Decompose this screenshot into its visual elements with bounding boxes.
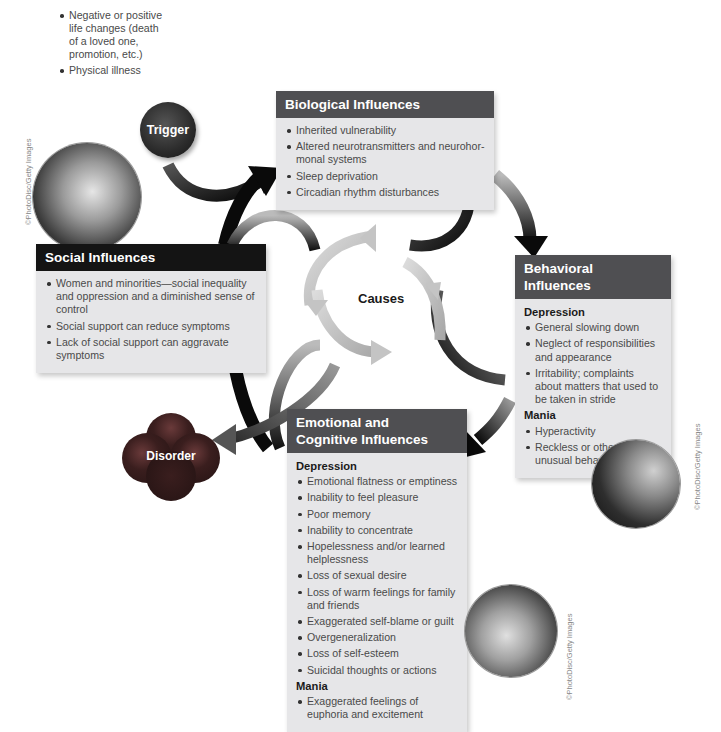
emotional-depression-label: Depression [296, 460, 458, 473]
behavioral-depression-label: Depression [524, 306, 662, 319]
biological-title: Biological Influences [276, 91, 494, 118]
trigger-list: Negative or positive life changes (death… [58, 8, 168, 80]
emotional-depression-item: Loss of warm feelings for family and fri… [296, 586, 458, 612]
emotional-depression-item: Loss of sexual desire [296, 569, 458, 582]
biological-influences-box: Biological Influences Inherited vulnerab… [276, 91, 494, 210]
trigger-item: Physical illness [58, 64, 168, 77]
emotional-depression-item: Overgeneralization [296, 631, 458, 644]
social-item: Social support can reduce symptoms [45, 320, 257, 333]
behavioral-mania-label: Mania [524, 409, 662, 422]
emotional-depression-item: Inability to feel pleasure [296, 491, 458, 504]
behavioral-depression-item: General slowing down [524, 321, 662, 334]
disorder-label: Disorder [122, 449, 220, 463]
social-influences-box: Social Influences Women and minorities—s… [36, 244, 266, 373]
emotional-depression-item: Suicidal thoughts or actions [296, 664, 458, 677]
trigger-node: Trigger [140, 102, 196, 158]
causes-label: Causes [358, 291, 404, 306]
arrow-behavioral-to-emotional [462, 400, 510, 458]
emotional-depression-item: Loss of self-esteem [296, 647, 458, 660]
behavioral-depression-item: Irritability; complaints about matters t… [524, 367, 662, 407]
emotional-title-line2: Cognitive Influences [296, 431, 458, 448]
biological-item: Sleep deprivation [285, 170, 485, 183]
emotional-depression-item: Poor memory [296, 508, 458, 521]
emotional-photo [465, 585, 557, 677]
emotional-title-line1: Emotional and [296, 414, 458, 431]
emotional-photo-credit: ©PhotoDisc/Getty Images [565, 614, 574, 700]
disorder-node: Disorder [122, 413, 220, 501]
behavioral-depression-item: Neglect of responsibilities and appearan… [524, 337, 662, 363]
emotional-cognitive-influences-box: Emotional and Cognitive Influences Depre… [287, 409, 467, 732]
social-photo-credit: ©PhotoDisc/Getty Images [24, 139, 33, 225]
social-photo [33, 143, 141, 251]
emotional-mania-label: Mania [296, 680, 458, 693]
biological-item: Inherited vulnerability [285, 124, 485, 137]
behavioral-photo-credit: ©PhotoDisc/Getty Images [693, 424, 702, 510]
trigger-label: Trigger [147, 123, 189, 137]
emotional-mania-item: Exaggerated feelings of euphoria and exc… [296, 695, 458, 721]
arrow-behavioral-inner [436, 290, 505, 380]
trigger-item: Negative or positive life changes (death… [58, 9, 168, 61]
social-item: Lack of social support can aggravate sym… [45, 336, 257, 362]
behavioral-mania-item: Hyperactivity [524, 425, 662, 438]
emotional-depression-item: Exaggerated self-blame or guilt [296, 615, 458, 628]
arrow-biological-to-behavioral [495, 175, 548, 258]
social-title: Social Influences [36, 244, 266, 271]
behavioral-photo [592, 440, 680, 528]
emotional-depression-item: Hopelessness and/or learned helplessness [296, 540, 458, 566]
behavioral-title: Behavioral Influences [515, 255, 671, 299]
biological-item: Circadian rhythm disturbances [285, 186, 485, 199]
social-item: Women and minorities—social inequality a… [45, 277, 257, 317]
emotional-depression-item: Emotional flatness or emptiness [296, 475, 458, 488]
biological-item: Altered neurotransmitters and neurohor-m… [285, 140, 485, 166]
emotional-depression-item: Inability to concentrate [296, 524, 458, 537]
emotional-title: Emotional and Cognitive Influences [287, 409, 467, 453]
